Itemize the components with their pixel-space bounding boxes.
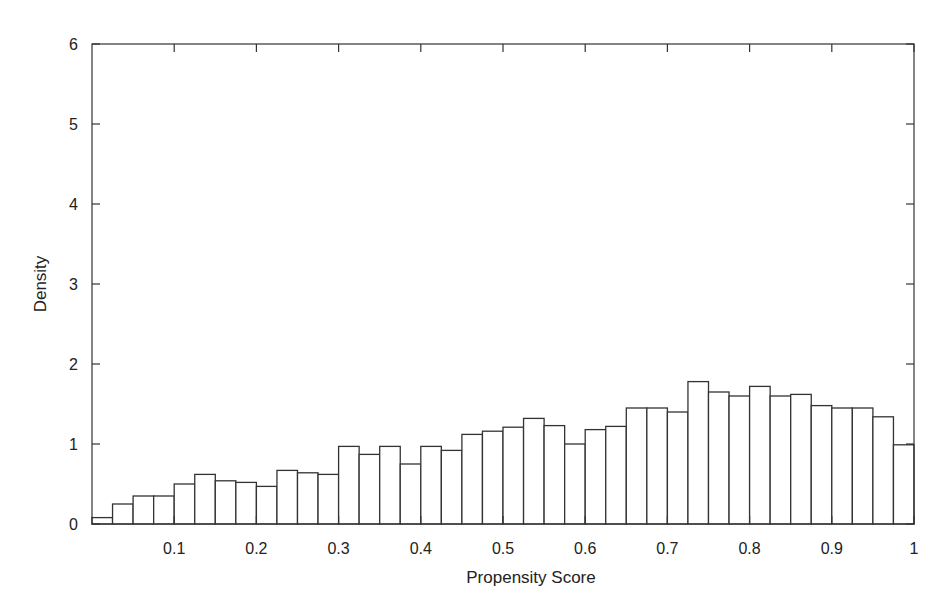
histogram-bar xyxy=(729,396,750,524)
histogram-bar xyxy=(421,446,442,524)
histogram-bar xyxy=(215,481,236,524)
histogram-bar xyxy=(256,486,277,524)
histogram-bar xyxy=(626,408,647,524)
histogram-bar xyxy=(174,484,195,524)
histogram-bar xyxy=(380,446,401,524)
histogram-bar xyxy=(298,473,319,524)
histogram-bar xyxy=(811,406,832,524)
histogram-bar xyxy=(277,470,298,524)
histogram-bar xyxy=(852,408,873,524)
y-tick-label: 0 xyxy=(69,516,78,533)
y-tick-label: 1 xyxy=(69,436,78,453)
y-axis-title: Density xyxy=(31,255,50,312)
y-tick-label: 2 xyxy=(69,356,78,373)
histogram-bars xyxy=(92,382,914,524)
x-tick-label: 0.9 xyxy=(821,540,843,557)
histogram-bar xyxy=(339,446,360,524)
y-tick-label: 3 xyxy=(69,276,78,293)
histogram-bar xyxy=(647,408,668,524)
histogram-bar xyxy=(133,496,154,524)
histogram-bar xyxy=(585,430,606,524)
histogram-bar xyxy=(195,474,216,524)
x-tick-label: 0.5 xyxy=(492,540,514,557)
y-tick-label: 4 xyxy=(69,196,78,213)
x-tick-label: 0.8 xyxy=(738,540,760,557)
histogram-bar xyxy=(462,434,483,524)
histogram-bar xyxy=(750,386,771,524)
histogram-bar xyxy=(893,445,914,524)
histogram-bar xyxy=(770,396,791,524)
histogram-bar xyxy=(318,474,339,524)
x-tick-label: 1 xyxy=(910,540,919,557)
histogram-bar xyxy=(544,426,565,524)
x-tick-label: 0.2 xyxy=(245,540,267,557)
histogram-bar xyxy=(524,418,545,524)
histogram-bar xyxy=(873,417,894,524)
histogram-bar xyxy=(400,464,421,524)
histogram-bar xyxy=(565,444,586,524)
histogram-bar xyxy=(441,450,462,524)
histogram-bar xyxy=(236,482,257,524)
histogram-bar xyxy=(606,426,627,524)
y-tick-label: 6 xyxy=(69,36,78,53)
x-tick-label: 0.6 xyxy=(574,540,596,557)
histogram-bar xyxy=(359,454,380,524)
y-tick-label: 5 xyxy=(69,116,78,133)
histogram-bar xyxy=(154,496,175,524)
histogram-bar xyxy=(688,382,709,524)
x-tick-label: 0.7 xyxy=(656,540,678,557)
x-tick-label: 0.3 xyxy=(327,540,349,557)
x-axis-title: Propensity Score xyxy=(466,568,595,587)
histogram-bar xyxy=(503,427,524,524)
histogram-bar xyxy=(92,518,113,524)
histogram-bar xyxy=(709,392,730,524)
histogram-bar xyxy=(791,394,812,524)
x-tick-label: 0.4 xyxy=(410,540,432,557)
histogram-chart: 0123456 0.10.20.30.40.50.60.70.80.91 Pro… xyxy=(0,0,947,613)
histogram-bar xyxy=(832,408,853,524)
histogram-bar xyxy=(113,504,134,524)
histogram-bar xyxy=(482,431,503,524)
histogram-bar xyxy=(667,412,688,524)
x-tick-label: 0.1 xyxy=(163,540,185,557)
